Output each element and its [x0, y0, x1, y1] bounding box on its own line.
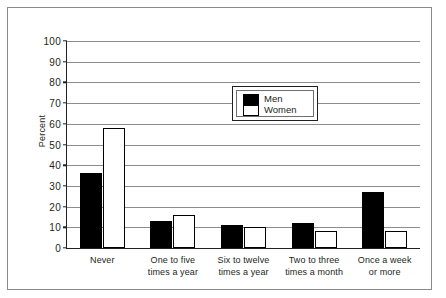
- bar-women: [173, 215, 195, 248]
- y-tick-label: 70: [49, 98, 61, 109]
- y-tick-label: 30: [49, 180, 61, 191]
- x-axis-label-line: Six to twelve: [208, 255, 279, 267]
- bar-group: [208, 41, 279, 248]
- legend-swatch-men-icon: [243, 94, 259, 105]
- x-axis-label: Once a weekor more: [349, 255, 420, 278]
- x-axis-label: One to fivetimes a year: [138, 255, 209, 278]
- chart-legend: Men Women: [232, 86, 318, 121]
- x-axis-label: Never: [67, 255, 138, 267]
- x-axis-label-line: or more: [349, 267, 420, 279]
- bar-group: [138, 41, 209, 248]
- x-axis-label-line: times a month: [279, 267, 350, 279]
- x-axis-label-line: times a year: [208, 267, 279, 279]
- bar-men: [150, 221, 172, 248]
- y-tick-label: 100: [43, 36, 61, 47]
- bar-group: [349, 41, 420, 248]
- x-axis-label-line: One to five: [138, 255, 209, 267]
- y-tick-label: 50: [49, 139, 61, 150]
- y-tick-label: 60: [49, 118, 61, 129]
- bar-women: [103, 128, 125, 248]
- bar-men: [362, 192, 384, 248]
- legend-label-men: Men: [264, 93, 282, 104]
- y-tick-label: 90: [49, 56, 61, 67]
- y-axis-title: Percent: [37, 91, 47, 171]
- plot-area: 0102030405060708090100 NeverOne to fivet…: [66, 41, 420, 249]
- x-axis-label: Six to twelvetimes a year: [208, 255, 279, 278]
- y-tick-label: 20: [49, 201, 61, 212]
- x-axis-label-line: Never: [67, 255, 138, 267]
- bar-men: [221, 225, 243, 248]
- x-axis-label-line: times a year: [138, 267, 209, 279]
- legend-swatch-women-icon: [243, 105, 259, 116]
- y-tick-label: 0: [55, 243, 61, 254]
- bar-men: [80, 173, 102, 248]
- bar-group: [279, 41, 350, 248]
- legend-label-women: Women: [264, 104, 297, 115]
- bar-men: [292, 223, 314, 248]
- x-axis-label: Two to threetimes a month: [279, 255, 350, 278]
- bar-group: [67, 41, 138, 248]
- x-axis-label-line: Two to three: [279, 255, 350, 267]
- y-tick-label: 10: [49, 222, 61, 233]
- x-axis-label-line: Once a week: [349, 255, 420, 267]
- y-tick-label: 40: [49, 160, 61, 171]
- y-tick-label: 80: [49, 77, 61, 88]
- bar-women: [385, 231, 407, 248]
- bar-women: [244, 227, 266, 248]
- legend-inner-border: Men Women: [236, 90, 314, 117]
- bar-women: [315, 231, 337, 248]
- figure-frame: Percent 0102030405060708090100 NeverOne …: [7, 7, 432, 290]
